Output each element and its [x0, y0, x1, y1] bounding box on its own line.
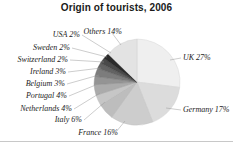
- slice-label-sweden: Sweden 2%: [6, 43, 70, 52]
- slice-label-belgium: Belgium 3%: [6, 79, 65, 88]
- leader-line-usa: [82, 35, 111, 53]
- pie-slice-uk: [137, 39, 180, 87]
- leader-line-italy: [84, 102, 105, 120]
- slice-label-portugal: Portugal 4%: [4, 91, 67, 100]
- pie-chart-figure: Origin of tourists, 2006: [0, 0, 233, 142]
- slice-label-ireland: Ireland 3%: [8, 67, 66, 76]
- leader-line-portugal: [69, 84, 98, 96]
- leader-line-sweden: [72, 48, 107, 57]
- slice-label-uk: UK 27%: [183, 53, 231, 62]
- slice-label-netherlands: Netherlands 4%: [0, 104, 72, 113]
- pie-slices: [94, 39, 180, 125]
- leader-line-ireland: [68, 68, 101, 72]
- slice-label-germany: Germany 17%: [183, 105, 233, 114]
- slice-label-france: France 16%: [62, 128, 118, 137]
- leader-line-netherlands: [74, 93, 100, 109]
- slice-label-italy: Italy 6%: [36, 115, 82, 124]
- slice-label-switzerland: Switzerland 2%: [0, 55, 68, 64]
- leader-line-switzerland: [70, 60, 104, 62]
- slice-label-usa: USA 2%: [18, 30, 80, 39]
